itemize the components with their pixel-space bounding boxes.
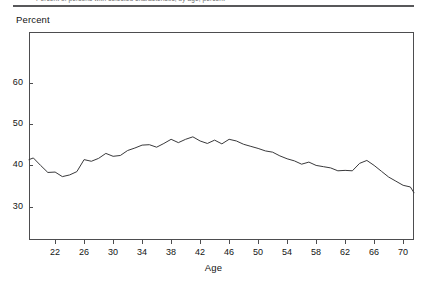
x-tick-mark [258, 240, 259, 244]
x-tick-label: 46 [219, 247, 239, 257]
line-chart: 30405060 22263034384246505458626670 [0, 0, 427, 288]
x-tick-mark [229, 240, 230, 244]
x-tick-label: 50 [248, 247, 268, 257]
x-tick-mark [55, 240, 56, 244]
x-tick-label: 54 [277, 247, 297, 257]
y-tick-mark [29, 124, 33, 125]
x-tick-label: 26 [74, 247, 94, 257]
y-tick-label: 30 [3, 201, 23, 211]
x-tick-mark [403, 240, 404, 244]
y-tick-mark [29, 165, 33, 166]
x-tick-label: 58 [306, 247, 326, 257]
x-tick-label: 22 [45, 247, 65, 257]
y-tick-label: 60 [3, 77, 23, 87]
x-tick-mark [345, 240, 346, 244]
x-tick-mark [374, 240, 375, 244]
x-axis-title: Age [0, 262, 427, 273]
x-tick-mark [171, 240, 172, 244]
x-tick-label: 66 [364, 247, 384, 257]
x-tick-label: 70 [393, 247, 413, 257]
x-tick-mark [287, 240, 288, 244]
y-tick-label: 40 [3, 159, 23, 169]
x-tick-label: 62 [335, 247, 355, 257]
x-tick-label: 38 [161, 247, 181, 257]
x-tick-mark [142, 240, 143, 244]
x-tick-mark [113, 240, 114, 244]
y-tick-mark [29, 83, 33, 84]
x-tick-label: 34 [132, 247, 152, 257]
x-tick-label: 30 [103, 247, 123, 257]
x-tick-mark [84, 240, 85, 244]
y-tick-mark [29, 207, 33, 208]
x-tick-label: 42 [190, 247, 210, 257]
plot-frame [29, 32, 414, 240]
x-tick-mark [200, 240, 201, 244]
y-tick-label: 50 [3, 118, 23, 128]
x-tick-mark [316, 240, 317, 244]
